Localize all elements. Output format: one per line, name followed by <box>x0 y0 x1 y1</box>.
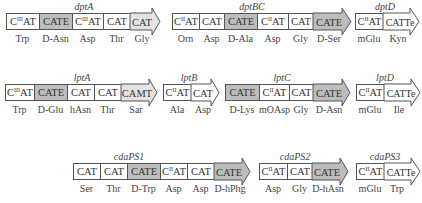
domain-cat: CAT <box>289 84 313 101</box>
substrate-label: Asp <box>257 33 288 44</box>
substrates-lptD: mGlu Ile <box>356 104 414 115</box>
operon-cdaPS3: CIIAT CATTe <box>356 163 420 180</box>
substrates-cdaPS1: Ser Thr D-Trp Asp Asp D-hPhg <box>73 183 246 194</box>
substrate-label: Orn <box>172 33 199 44</box>
substrate-label: mGlu <box>356 104 384 115</box>
substrate-label: D-hPhg <box>214 183 246 194</box>
domain-cat: CAT <box>100 163 127 180</box>
substrates-lptB: Ala Asp <box>163 104 215 115</box>
domain-catte-terminal-arrow: CATTe <box>384 163 420 180</box>
substrate-label: Thr <box>103 33 130 44</box>
domain-cat: CAT <box>199 13 224 30</box>
domain-c2at: CIIAT <box>355 13 383 30</box>
substrate-label: Gly <box>289 104 313 115</box>
gene-title-dptBC: dptBC <box>239 1 265 12</box>
domain-catte-terminal-arrow: CATTe <box>384 84 420 101</box>
substrate-label: Ser <box>73 183 100 194</box>
domain-cate: CATE <box>34 84 67 101</box>
domain-cat: CAT <box>287 163 312 180</box>
domain-cat: CAT <box>73 163 100 180</box>
substrate-label: Asp <box>191 104 215 115</box>
domain-cate-terminal-arrow: CATE <box>313 13 351 30</box>
gene-title-lptC: lptC <box>273 72 290 83</box>
domain-c3at: CIIIAT <box>72 13 103 30</box>
domain-cate: CATE <box>225 84 259 101</box>
substrate-label: Trp <box>384 183 410 194</box>
substrates-cdaPS3: mGlu Trp <box>356 183 410 194</box>
svg-text:CATE: CATE <box>316 88 342 99</box>
domain-cat: CAT <box>67 84 94 101</box>
substrate-label: D-Glu <box>34 104 67 115</box>
operon-lptA: CIIIAT CATE CAT CAT CAMT <box>5 84 157 101</box>
operon-dptBC: CIIAT CAT CATE CIIAT CAT CATE <box>172 13 351 30</box>
substrate-label: Asp <box>72 33 103 44</box>
substrate-label: D-Lys <box>225 104 259 115</box>
gene-title-lptA: lptA <box>74 72 91 83</box>
domain-c2at: CIIAT <box>259 163 287 180</box>
domain-cate-terminal-arrow: CATE <box>312 163 348 180</box>
gene-title-cdaPS1: cdaPS1 <box>114 151 145 162</box>
substrate-label: Gly <box>130 33 154 44</box>
operon-cdaPS2: CIIAT CAT CATE <box>259 163 348 180</box>
substrate-label: hAsn <box>67 104 94 115</box>
substrate-label: mGlu <box>355 33 383 44</box>
substrate-label: Trp <box>5 104 34 115</box>
svg-text:CAT: CAT <box>132 17 152 28</box>
substrate-label: Trp <box>6 33 39 44</box>
operon-lptB: CIIAT CAT <box>163 84 219 101</box>
substrate-label: D-Asn <box>39 33 72 44</box>
domain-cat: CAT <box>103 13 130 30</box>
substrate-label: D-hAsn <box>312 183 344 194</box>
domain-c2at: CIIAT <box>160 163 187 180</box>
domain-c2at: CIIAT <box>259 84 289 101</box>
domain-cat-terminal-arrow: CAT <box>130 13 160 30</box>
domain-c2at: CIIAT <box>356 163 384 180</box>
substrate-label: Kyn <box>383 33 413 44</box>
domain-c2at: CIIAT <box>163 84 191 101</box>
substrate-label: D-Asn <box>313 104 345 115</box>
substrates-dptBC: Orn Asp D-Ala Asp Gly D-Ser <box>172 33 345 44</box>
operon-cdaPS1: CAT CAT CATE CIIAT CAT CATE <box>73 163 250 180</box>
domain-cat: CAT <box>288 13 313 30</box>
substrate-label: Sar <box>121 104 151 115</box>
domain-cat-terminal-arrow: CAT <box>191 84 219 101</box>
substrate-label: D-Ala <box>224 33 257 44</box>
operon-dptA: CIIIAT CATE CIIIAT CAT CAT <box>6 13 160 30</box>
svg-text:CATE: CATE <box>316 17 342 28</box>
substrate-label: Asp <box>259 183 287 194</box>
domain-c2at: CIIAT <box>356 84 384 101</box>
substrate-label: Asp <box>160 183 187 194</box>
domain-c3at: CIIIAT <box>6 13 39 30</box>
substrate-label: mOAsp <box>259 104 289 115</box>
substrate-label: Gly <box>288 33 313 44</box>
substrates-dptD: mGlu Kyn <box>355 33 413 44</box>
domain-cat: CAT <box>187 163 214 180</box>
svg-text:CATTe: CATTe <box>387 167 416 178</box>
domain-cate-terminal-arrow: CATE <box>313 84 350 101</box>
domain-c3at: CIIIAT <box>5 84 34 101</box>
domain-cate-terminal-arrow: CATE <box>214 163 250 180</box>
substrates-dptA: Trp D-Asn Asp Thr Gly <box>6 33 154 44</box>
gene-title-dptA: dptA <box>75 1 94 12</box>
domain-cate: CATE <box>127 163 160 180</box>
domain-c2at: CIIAT <box>257 13 288 30</box>
domain-camt-terminal-arrow: CAMT <box>121 84 157 101</box>
substrates-lptA: Trp D-Glu hAsn Thr Sar <box>5 104 151 115</box>
substrates-lptC: D-Lys mOAsp Gly D-Asn <box>225 104 345 115</box>
svg-text:CATE: CATE <box>314 167 340 178</box>
domain-catte-terminal-arrow: CATTe <box>383 13 419 30</box>
substrate-label: Ile <box>384 104 414 115</box>
svg-text:CATE: CATE <box>216 167 242 178</box>
svg-text:CATTe: CATTe <box>386 17 415 28</box>
substrate-label: Asp <box>199 33 224 44</box>
substrate-label: D-Ser <box>313 33 345 44</box>
domain-c2at: CIIAT <box>172 13 199 30</box>
gene-title-cdaPS2: cdaPS2 <box>280 151 311 162</box>
substrate-label: Thr <box>100 183 127 194</box>
svg-text:CAT: CAT <box>193 88 213 99</box>
substrate-label: D-Trp <box>127 183 160 194</box>
domain-cate: CATE <box>224 13 257 30</box>
substrate-label: Asp <box>187 183 214 194</box>
svg-text:CATTe: CATTe <box>387 88 416 99</box>
domain-cat: CAT <box>94 84 121 101</box>
